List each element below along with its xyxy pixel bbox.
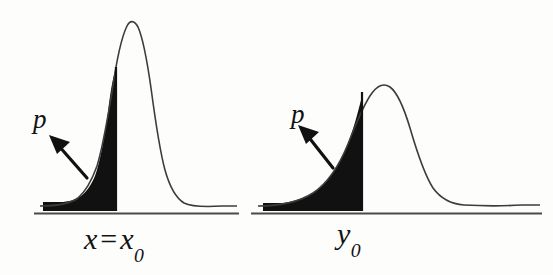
left-panel-group	[35, 22, 238, 214]
distributions-plot	[0, 0, 553, 275]
right-axis-variable-hat-wrapper: ˆy	[337, 219, 350, 249]
right-axis-subscript: 0	[351, 239, 361, 261]
left-axis-equals-sign: =	[97, 222, 120, 255]
left-panel-density-curve	[40, 22, 237, 207]
left-panel-probability-arrow	[49, 135, 87, 178]
right-panel-probability-arrow	[298, 125, 333, 168]
right-panel-p-label: p	[291, 101, 305, 128]
left-panel-p-label: p	[33, 106, 47, 133]
left-axis-threshold-variable: x	[120, 222, 133, 255]
left-panel-axis-label: x=x0	[84, 224, 143, 260]
left-axis-variable: x	[84, 222, 97, 255]
left-panel-tail-foot-band	[43, 202, 116, 211]
right-axis-hat-accent: ˆ	[339, 201, 349, 230]
left-axis-threshold-subscript: 0	[134, 244, 144, 266]
statistical-distribution-figure: p p x=x0 ˆy0	[0, 0, 553, 275]
right-panel-axis-label: ˆy0	[337, 219, 360, 255]
